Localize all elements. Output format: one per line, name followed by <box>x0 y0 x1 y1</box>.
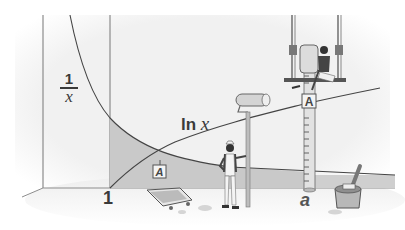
fraction-denominator: x <box>60 90 78 104</box>
paint-spill <box>198 205 212 211</box>
x-tick-one: 1 <box>103 188 113 209</box>
reciprocal-function-label: 1 x <box>60 72 78 104</box>
x-tick-a: a <box>300 190 310 211</box>
svg-text:A: A <box>305 95 314 109</box>
roller-pole <box>246 112 250 207</box>
svg-text:A: A <box>155 166 164 178</box>
ln-text: ln <box>181 115 196 134</box>
ln-variable: x <box>201 113 209 134</box>
fraction-numerator: 1 <box>60 72 78 86</box>
figure: A <box>0 0 405 230</box>
ln-function-label: ln x <box>181 113 209 135</box>
